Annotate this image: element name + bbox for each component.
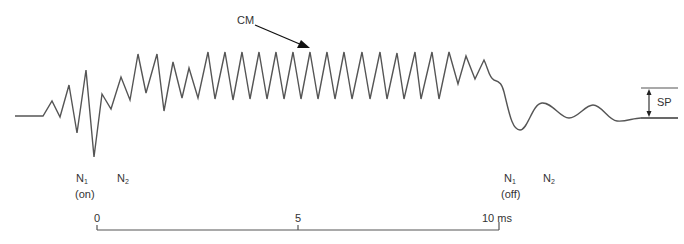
n2-off-label: N2 bbox=[543, 173, 555, 185]
time-tick-label-5: 5 bbox=[295, 213, 301, 224]
n2-on-label: N2 bbox=[117, 173, 129, 185]
n1-on-main: N bbox=[76, 172, 84, 184]
n2-off-main: N bbox=[543, 172, 551, 184]
sp-arrow-down-icon bbox=[647, 111, 652, 117]
n1-on-sub: 1 bbox=[84, 178, 88, 185]
sp-label: SP bbox=[657, 97, 672, 108]
cm-arrow-line bbox=[255, 25, 302, 45]
n1-on-note: (on) bbox=[75, 189, 95, 200]
n1-off-main: N bbox=[504, 172, 512, 184]
sp-arrow-up-icon bbox=[647, 89, 652, 95]
n2-on-main: N bbox=[117, 172, 125, 184]
n1-off-sub: 1 bbox=[512, 178, 516, 185]
time-tick-label-10: 10 ms bbox=[482, 213, 512, 224]
n2-off-sub: 2 bbox=[551, 178, 555, 185]
waveform-figure bbox=[0, 0, 684, 244]
n1-on-label: N1 bbox=[76, 173, 88, 185]
waveform-trace bbox=[15, 52, 678, 157]
n2-on-sub: 2 bbox=[125, 178, 129, 185]
n1-off-note: (off) bbox=[501, 189, 520, 200]
time-tick-label-0: 0 bbox=[94, 213, 100, 224]
cm-label: CM bbox=[237, 15, 254, 26]
n1-off-label: N1 bbox=[504, 173, 516, 185]
